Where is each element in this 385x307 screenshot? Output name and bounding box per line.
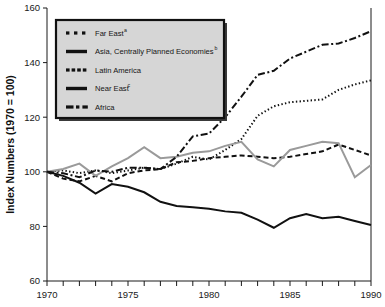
legend-superscript: c (128, 82, 131, 88)
legend-swatch-dot (76, 105, 79, 108)
legend-swatch-dash (66, 105, 74, 108)
legend-label: Far East (95, 29, 125, 38)
legend-swatch-dot (83, 68, 87, 71)
legend-label: Asia, Centrally Planned Economies (95, 47, 214, 56)
x-tick-label: 1985 (279, 289, 300, 300)
line-chart: Far EastaAsia, Centrally Planned Economi… (0, 0, 385, 307)
legend-label: Near East (95, 84, 130, 93)
legend-swatch-dot (77, 68, 81, 71)
chart-legend: Far EastaAsia, Centrally Planned Economi… (56, 20, 227, 121)
legend-label: Latin America (95, 66, 142, 75)
legend-swatch-bar (66, 87, 87, 90)
legend-swatch-dot (66, 68, 70, 71)
legend-swatch-dash (82, 105, 87, 108)
chart-container: Far EastaAsia, Centrally Planned Economi… (0, 0, 385, 307)
y-tick-label: 100 (24, 166, 40, 177)
y-tick-label: 120 (24, 112, 40, 123)
y-axis-title: Index Numbers (1970 = 100) (4, 75, 16, 214)
legend-superscript: b (215, 45, 218, 51)
series-line-near-east (47, 142, 371, 177)
x-tick-label: 1970 (36, 289, 57, 300)
legend-label: Africa (95, 103, 115, 112)
series-line-asia-centrally-planned-economies (47, 172, 371, 228)
legend-swatch-dot (82, 31, 85, 34)
legend-swatch-dot (72, 68, 76, 71)
legend-swatch-bar (66, 50, 87, 53)
x-tick-label: 1975 (117, 289, 138, 300)
legend-swatch-dot (74, 31, 77, 34)
legend-swatch-dot (66, 31, 69, 34)
y-tick-label: 60 (29, 275, 40, 286)
legend-superscript: a (124, 27, 127, 33)
y-tick-label: 160 (24, 2, 40, 13)
x-tick-label: 1980 (198, 289, 219, 300)
y-tick-label: 140 (24, 57, 40, 68)
x-tick-label: 1990 (360, 289, 381, 300)
y-tick-label: 80 (29, 221, 40, 232)
